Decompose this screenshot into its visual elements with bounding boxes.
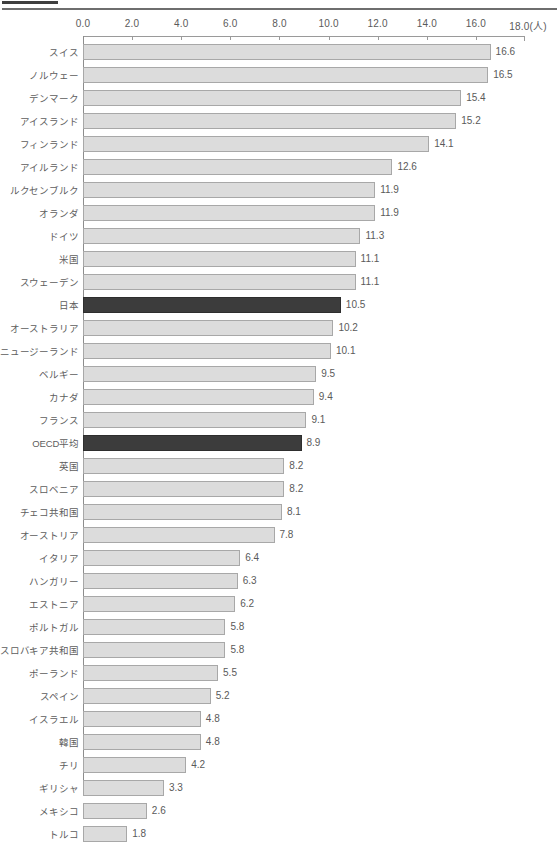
bar-value-label: 4.8 bbox=[206, 734, 220, 750]
category-label: ドイツ bbox=[0, 225, 79, 248]
x-tick-mark bbox=[427, 36, 428, 40]
bar-value-label: 12.6 bbox=[397, 159, 416, 175]
bar-value-label: 4.2 bbox=[191, 757, 205, 773]
bar[interactable] bbox=[83, 688, 211, 704]
bar-highlighted[interactable] bbox=[83, 297, 341, 313]
bar[interactable] bbox=[83, 320, 333, 336]
bar-track: 5.8 bbox=[83, 639, 559, 662]
bar[interactable] bbox=[83, 205, 375, 221]
bar-row: オーストリア7.8 bbox=[0, 524, 559, 547]
category-label: アイルランド bbox=[0, 156, 79, 179]
bar-track: 7.8 bbox=[83, 524, 559, 547]
x-tick-label: 14.0 bbox=[417, 18, 437, 29]
category-label: OECD平均 bbox=[0, 432, 79, 455]
category-label: スロバキア共和国 bbox=[0, 639, 79, 662]
bar[interactable] bbox=[83, 412, 306, 428]
bar[interactable] bbox=[83, 113, 456, 129]
category-label: カナダ bbox=[0, 386, 79, 409]
bar-row: アイスランド15.2 bbox=[0, 110, 559, 133]
category-label: トルコ bbox=[0, 823, 79, 846]
bar[interactable] bbox=[83, 343, 331, 359]
bar[interactable] bbox=[83, 136, 429, 152]
bar[interactable] bbox=[83, 228, 360, 244]
x-tick-mark bbox=[279, 36, 280, 40]
bar[interactable] bbox=[83, 757, 186, 773]
bar-value-label: 4.8 bbox=[206, 711, 220, 727]
bar-row: スイス16.6 bbox=[0, 41, 559, 64]
x-tick-label: 12.0 bbox=[368, 18, 388, 29]
bar-track: 8.1 bbox=[83, 501, 559, 524]
bar-row: オーストラリア10.2 bbox=[0, 317, 559, 340]
bar[interactable] bbox=[83, 389, 314, 405]
bar[interactable] bbox=[83, 619, 225, 635]
bar-value-label: 8.1 bbox=[287, 504, 301, 520]
bar[interactable] bbox=[83, 67, 488, 83]
bar-track: 6.3 bbox=[83, 570, 559, 593]
bar[interactable] bbox=[83, 550, 240, 566]
bar[interactable] bbox=[83, 274, 356, 290]
bar[interactable] bbox=[83, 458, 284, 474]
bar-value-label: 8.9 bbox=[307, 435, 321, 451]
category-label: フランス bbox=[0, 409, 79, 432]
bar[interactable] bbox=[83, 527, 275, 543]
bar-track: 11.1 bbox=[83, 248, 559, 271]
bar-track: 9.4 bbox=[83, 386, 559, 409]
category-label: ルクセンブルク bbox=[0, 179, 79, 202]
category-label: スペイン bbox=[0, 685, 79, 708]
bar[interactable] bbox=[83, 504, 282, 520]
bar-track: 11.1 bbox=[83, 271, 559, 294]
bar-row: ポルトガル5.8 bbox=[0, 616, 559, 639]
bar[interactable] bbox=[83, 44, 491, 60]
bar-highlighted[interactable] bbox=[83, 435, 302, 451]
bar-value-label: 16.5 bbox=[493, 67, 512, 83]
bar[interactable] bbox=[83, 251, 356, 267]
bar-rows: スイス16.6ノルウェー16.5デンマーク15.4アイスランド15.2フィンラン… bbox=[0, 41, 559, 846]
bar-value-label: 11.3 bbox=[365, 228, 384, 244]
bar-value-label: 16.6 bbox=[496, 44, 515, 60]
category-label: イスラエル bbox=[0, 708, 79, 731]
x-tick-mark bbox=[230, 36, 231, 40]
bar[interactable] bbox=[83, 642, 225, 658]
bar-value-label: 15.4 bbox=[466, 90, 485, 106]
bar-track: 15.2 bbox=[83, 110, 559, 133]
bar[interactable] bbox=[83, 665, 218, 681]
bar[interactable] bbox=[83, 573, 238, 589]
x-tick-label: 4.0 bbox=[174, 18, 189, 29]
x-tick-label: 10.0 bbox=[318, 18, 338, 29]
bar-track: 12.6 bbox=[83, 156, 559, 179]
bar[interactable] bbox=[83, 596, 235, 612]
bar-value-label: 11.1 bbox=[361, 251, 380, 267]
bar[interactable] bbox=[83, 159, 392, 175]
bar-row: スロバキア共和国5.8 bbox=[0, 639, 559, 662]
category-label: フィンランド bbox=[0, 133, 79, 156]
bar-value-label: 8.2 bbox=[289, 458, 303, 474]
x-tick-label: 0.0 bbox=[76, 18, 91, 29]
bar-track: 5.8 bbox=[83, 616, 559, 639]
x-tick-label: 2.0 bbox=[125, 18, 140, 29]
bar[interactable] bbox=[83, 734, 201, 750]
bar-row: 米国11.1 bbox=[0, 248, 559, 271]
bar-value-label: 1.8 bbox=[132, 826, 146, 842]
category-label: オランダ bbox=[0, 202, 79, 225]
category-label: デンマーク bbox=[0, 87, 79, 110]
bar-value-label: 14.1 bbox=[434, 136, 453, 152]
bar-track: 8.2 bbox=[83, 478, 559, 501]
bar[interactable] bbox=[83, 182, 375, 198]
category-label: メキシコ bbox=[0, 800, 79, 823]
bar-row: トルコ1.8 bbox=[0, 823, 559, 846]
bar-row: カナダ9.4 bbox=[0, 386, 559, 409]
bar[interactable] bbox=[83, 481, 284, 497]
bar-row: OECD平均8.9 bbox=[0, 432, 559, 455]
bar[interactable] bbox=[83, 711, 201, 727]
bar[interactable] bbox=[83, 366, 316, 382]
bar[interactable] bbox=[83, 780, 164, 796]
bar[interactable] bbox=[83, 826, 127, 842]
bar-track: 5.5 bbox=[83, 662, 559, 685]
bar-track: 2.6 bbox=[83, 800, 559, 823]
bar-value-label: 11.9 bbox=[380, 182, 399, 198]
category-label: ポーランド bbox=[0, 662, 79, 685]
bar[interactable] bbox=[83, 90, 461, 106]
bar-row: ギリシャ3.3 bbox=[0, 777, 559, 800]
title-underline-long bbox=[2, 8, 557, 10]
bar[interactable] bbox=[83, 803, 147, 819]
